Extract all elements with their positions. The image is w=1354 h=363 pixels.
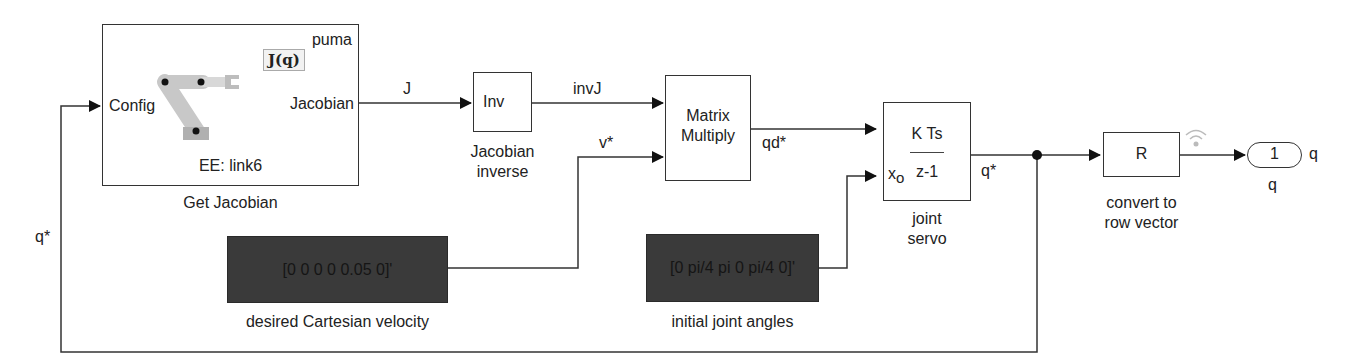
- outport-signal-label: q: [1309, 145, 1318, 163]
- joint-servo-name: joint servo: [875, 209, 979, 249]
- initial-angles-name: initial joint angles: [620, 313, 845, 331]
- x0-sub: o: [896, 169, 904, 186]
- signal-label-q-feedback: q*: [35, 228, 50, 246]
- servo-numerator: K Ts: [884, 125, 970, 143]
- config-port-label: Config: [109, 97, 155, 115]
- get-jacobian-block[interactable]: J(q) puma Config Jacobian EE: link6: [102, 24, 359, 186]
- x0-port-label: xo: [888, 165, 904, 186]
- joint-servo-block[interactable]: K Ts z-1 xo: [883, 102, 971, 201]
- matmul-text: Matrix Multiply: [666, 106, 750, 146]
- robot-arm-icon: [151, 45, 251, 140]
- get-jacobian-name: Get Jacobian: [102, 194, 359, 212]
- jacobian-inverse-name: Jacobian inverse: [450, 142, 555, 182]
- inv-name-line2: inverse: [450, 162, 555, 182]
- inv-block-text: Inv: [483, 93, 504, 111]
- branch-point: [1032, 150, 1042, 160]
- inv-name-line1: Jacobian: [450, 142, 555, 162]
- angles-value: [0 pi/4 pi 0 pi/4 0]': [647, 259, 818, 277]
- outport-number: 1: [1270, 145, 1279, 162]
- jacobian-port-label: Jacobian: [290, 95, 354, 113]
- signal-label-q-out: q*: [981, 162, 996, 180]
- initial-angles-constant[interactable]: [0 pi/4 pi 0 pi/4 0]': [646, 234, 819, 302]
- row-name-line1: convert to: [1083, 193, 1200, 213]
- signal-label-invJ: invJ: [573, 80, 601, 98]
- row-vector-block[interactable]: R: [1103, 132, 1180, 177]
- jacobian-icon-label: J(q): [263, 49, 305, 71]
- matrix-multiply-block[interactable]: Matrix Multiply: [665, 75, 751, 181]
- desired-velocity-name: desired Cartesian velocity: [210, 313, 465, 331]
- servo-name-line1: joint: [875, 209, 979, 229]
- row-block-text: R: [1104, 145, 1179, 163]
- fraction-bar: [910, 152, 944, 153]
- desired-velocity-constant[interactable]: [0 0 0 0 0.05 0]': [227, 236, 448, 303]
- robot-name-label: puma: [312, 31, 352, 49]
- matmul-text-line2: Multiply: [666, 126, 750, 146]
- outport-q[interactable]: 1: [1247, 142, 1302, 168]
- signal-logging-icon: [1186, 131, 1206, 140]
- jacobian-inverse-block[interactable]: Inv: [473, 72, 532, 132]
- wire-x0: [819, 176, 876, 268]
- ee-label: EE: link6: [103, 157, 358, 175]
- servo-name-line2: servo: [875, 229, 979, 249]
- row-name-line2: row vector: [1083, 213, 1200, 233]
- signal-label-J: J: [403, 80, 411, 98]
- signal-label-qd: qd*: [762, 134, 786, 152]
- x0-x: x: [888, 165, 896, 182]
- matmul-text-line1: Matrix: [666, 106, 750, 126]
- outport-name: q: [1268, 176, 1277, 194]
- signal-label-v: v*: [599, 134, 613, 152]
- velocity-value: [0 0 0 0 0.05 0]': [228, 261, 447, 279]
- row-vector-name: convert to row vector: [1083, 193, 1200, 233]
